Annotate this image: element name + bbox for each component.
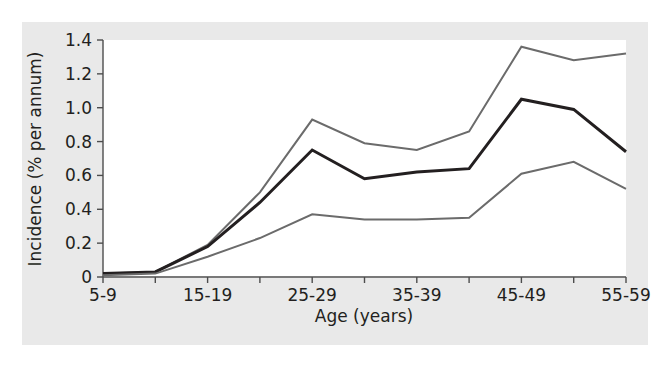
y-tick-label: 0.2 xyxy=(65,233,92,253)
incidence-by-age-line-chart: 00.20.40.60.81.01.21.4 5-915-1925-2935-3… xyxy=(0,0,668,365)
x-axis-title: Age (years) xyxy=(315,306,413,326)
series-line-upper-confidence-limit xyxy=(103,47,626,274)
x-tick-label: 25-29 xyxy=(287,285,336,305)
y-tick-label: 1.2 xyxy=(65,64,92,84)
y-tick-label: 0.8 xyxy=(65,132,92,152)
x-tick-label: 5-9 xyxy=(89,285,117,305)
y-tick-label: 0.6 xyxy=(65,165,92,185)
y-tick-label: 1.4 xyxy=(65,30,92,50)
x-tick-label: 15-19 xyxy=(183,285,232,305)
y-tick-label: 0.4 xyxy=(65,199,92,219)
figure-root: 00.20.40.60.81.01.21.4 5-915-1925-2935-3… xyxy=(0,0,668,365)
x-axis-tick-labels: 5-915-1925-2935-3945-4955-59 xyxy=(89,285,651,305)
y-axis-title: Incidence (% per annum) xyxy=(25,52,45,267)
series-line-central-estimate xyxy=(103,99,626,273)
y-tick-label: 0 xyxy=(81,267,92,287)
y-axis-tick-labels: 00.20.40.60.81.01.21.4 xyxy=(65,30,92,287)
x-tick-label: 45-49 xyxy=(497,285,546,305)
y-tick-label: 1.0 xyxy=(65,98,92,118)
y-axis-ticks xyxy=(97,40,103,277)
data-series-group xyxy=(103,47,626,276)
x-tick-label: 35-39 xyxy=(392,285,441,305)
x-tick-label: 55-59 xyxy=(601,285,650,305)
x-axis-ticks xyxy=(103,277,626,283)
